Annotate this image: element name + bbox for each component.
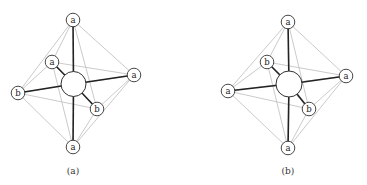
edge-bottom-left [228,91,288,148]
atom-label: a [49,57,54,67]
atom-label: a [285,143,290,153]
caption-a: (a) [53,166,93,176]
atom-left: b [11,86,25,100]
atom-top: a [66,13,80,27]
atom-label: a [225,86,230,96]
edge-bottom-left [18,93,73,147]
panel-b: abaaba [221,15,353,155]
caption-b: (b) [268,166,308,176]
panel-a: aaabba [11,13,141,154]
atom-bottom: a [66,140,80,154]
atom-left: a [221,84,235,98]
atom-label: a [131,70,136,80]
atom-label: b [264,57,270,67]
atom-lower-right: b [302,102,316,116]
atom-top: a [281,15,295,29]
atom-bottom: a [281,141,295,155]
atom-label: a [343,71,348,81]
center-atom [276,71,302,97]
octahedral-coordination-diagram: aaabbaabaaba [0,0,367,185]
atom-label: a [70,142,75,152]
center-atom [61,72,86,97]
atom-lower-right: b [90,102,104,116]
atom-upper-left: a [45,55,59,69]
atom-label: a [285,17,290,27]
edge-top-right [288,22,346,76]
atom-right: a [339,69,353,83]
atom-right: a [127,68,141,82]
atom-label: a [70,15,75,25]
atom-upper-left: b [260,55,274,69]
atom-label: b [15,88,21,98]
atom-label: b [306,104,312,114]
atom-label: b [94,104,100,114]
